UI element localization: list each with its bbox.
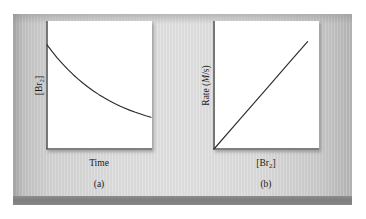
y-axis-title-a-prefix: [Br: [34, 82, 44, 95]
x-axis-title-b-prefix: [Br: [256, 158, 269, 168]
y-axis-title-b: Rate (M/s): [197, 21, 215, 150]
panel-a: [Br2] Time (a): [13, 14, 163, 205]
y-axis-title-b-prefix: Rate (: [201, 83, 211, 106]
x-axis-title-a-prefix: Time: [89, 158, 109, 168]
y-axis-title-b-unit: M: [201, 75, 211, 83]
x-axis-title-a: Time: [46, 158, 152, 168]
y-axis-title-a: [Br2]: [30, 21, 48, 150]
panel-b-labels: Rate (M/s) [Br2] (b): [213, 21, 319, 150]
panel-caption-a: (a): [46, 179, 152, 189]
panel-caption-b: (b): [213, 179, 319, 189]
y-axis-title-a-suffix: ]: [34, 76, 44, 79]
x-axis-title-b: [Br2]: [213, 158, 319, 169]
panel-b: Rate (M/s) [Br2] (b): [180, 14, 330, 205]
panel-a-labels: [Br2] Time (a): [46, 21, 152, 150]
x-axis-title-b-suffix: ]: [272, 158, 275, 168]
y-axis-title-a-sub: 2: [38, 79, 45, 82]
y-axis-title-b-suffix: /s): [201, 65, 211, 75]
figure-root: [Br2] Time (a) Rate (M/s) [Br2] (b): [0, 0, 366, 219]
